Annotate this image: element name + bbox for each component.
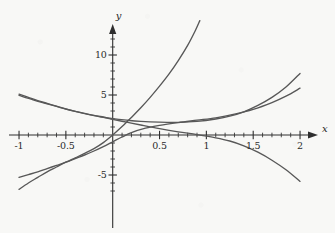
x-tick-label: -0.5 bbox=[52, 140, 80, 151]
function-graph-figure bbox=[0, 0, 335, 233]
plot-background bbox=[0, 0, 335, 233]
x-axis-label: x bbox=[322, 123, 328, 134]
x-tick-label: 2 bbox=[286, 140, 314, 151]
y-tick-label: 10 bbox=[81, 49, 107, 60]
y-tick-label: 5 bbox=[81, 89, 107, 100]
x-tick-label: 1.5 bbox=[239, 140, 267, 151]
y-axis-label: y bbox=[116, 10, 122, 21]
x-tick-label: 1 bbox=[192, 140, 220, 151]
x-tick-label: -1 bbox=[5, 140, 33, 151]
x-tick-label: 0.5 bbox=[146, 140, 174, 151]
y-tick-label: -5 bbox=[81, 169, 107, 180]
